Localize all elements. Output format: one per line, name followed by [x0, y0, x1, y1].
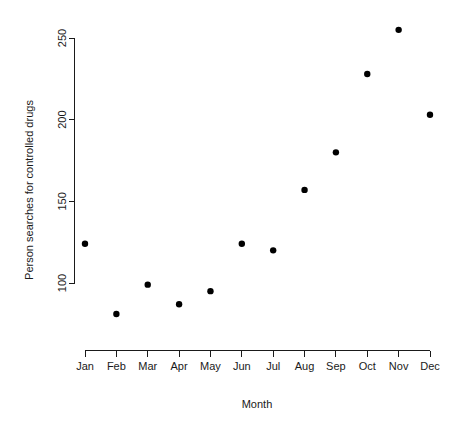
data-point: [82, 241, 88, 247]
data-points-layer: [82, 27, 433, 318]
y-tick-label: 150: [56, 192, 68, 210]
y-tick-label: 250: [56, 29, 68, 47]
data-point: [176, 301, 182, 307]
scatter-plot: 100150200250 JanFebMarAprMayJunJulAugSep…: [0, 0, 459, 427]
x-tick-label: Feb: [107, 360, 126, 372]
data-point: [239, 241, 245, 247]
chart-screenshot: 100150200250 JanFebMarAprMayJunJulAugSep…: [0, 0, 459, 427]
data-point: [270, 247, 276, 253]
data-point: [395, 27, 401, 33]
data-point: [207, 288, 213, 294]
x-tick-label: Dec: [420, 360, 440, 372]
x-axis-ticks: JanFebMarAprMayJunJulAugSepOctNovDec: [76, 351, 440, 372]
y-axis-ticks: 100150200250: [56, 29, 75, 292]
x-tick-label: Nov: [389, 360, 409, 372]
x-tick-label: Jan: [76, 360, 94, 372]
x-axis-title: Month: [242, 398, 273, 410]
y-tick-label: 200: [56, 110, 68, 128]
data-point: [427, 112, 433, 118]
y-axis-title: Person searches for controlled drugs: [23, 100, 35, 280]
x-tick-label: Jul: [266, 360, 280, 372]
data-point: [113, 311, 119, 317]
data-point: [364, 71, 370, 77]
x-tick-label: May: [200, 360, 221, 372]
data-point: [301, 187, 307, 193]
x-tick-label: Mar: [138, 360, 157, 372]
x-tick-label: Aug: [295, 360, 315, 372]
data-point: [145, 281, 151, 287]
data-point: [333, 149, 339, 155]
y-tick-label: 100: [56, 274, 68, 292]
x-tick-label: Jun: [233, 360, 251, 372]
x-tick-label: Sep: [326, 360, 346, 372]
x-tick-label: Oct: [359, 360, 376, 372]
x-tick-label: Apr: [171, 360, 188, 372]
